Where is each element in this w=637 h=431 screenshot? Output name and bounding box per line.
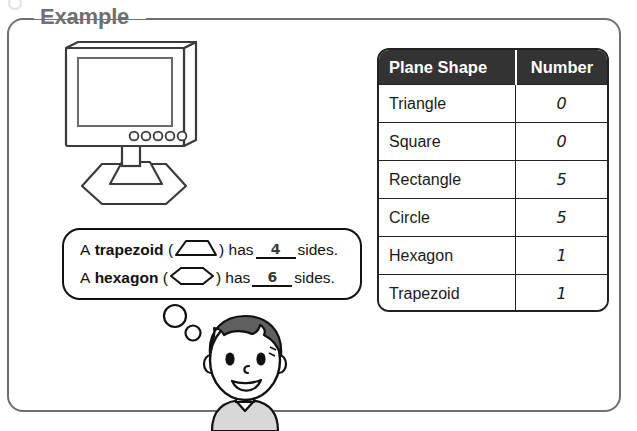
table-row: Hexagon1 bbox=[379, 237, 607, 275]
table-header-row: Plane Shape Number bbox=[379, 50, 607, 85]
verb-1: has bbox=[229, 241, 254, 259]
tail-2: sides. bbox=[294, 269, 335, 287]
thought-bubble-small-icon bbox=[186, 326, 201, 341]
sentence-hexagon: A hexagon ( ) has 6 sides. bbox=[80, 264, 335, 292]
open-paren-2: ( bbox=[163, 269, 168, 287]
blank-underline-1 bbox=[256, 257, 296, 259]
table-row: Rectangle5 bbox=[379, 161, 607, 199]
worksheet-page: Example A trapezoi bbox=[0, 0, 637, 431]
cell-shape-count[interactable]: 0 bbox=[516, 123, 607, 161]
shape-name-hexagon: hexagon bbox=[95, 269, 159, 287]
answer-value-trapezoid: 4 bbox=[256, 241, 296, 257]
open-paren-1: ( bbox=[168, 241, 173, 259]
monitor-icon bbox=[58, 36, 210, 208]
hexagon-glyph-icon bbox=[169, 266, 215, 290]
tail-1: sides. bbox=[298, 241, 339, 259]
cell-shape-count[interactable]: 5 bbox=[516, 161, 607, 199]
section-label: Example bbox=[40, 4, 129, 30]
shape-tally-table: Plane Shape Number Triangle0Square0Recta… bbox=[377, 48, 609, 312]
computer-monitor-illustration bbox=[58, 36, 210, 208]
cell-shape-count[interactable]: 1 bbox=[516, 275, 607, 313]
sentence-box: A trapezoid ( ) has 4 sides. A hexagon (… bbox=[62, 228, 362, 300]
thought-bubble-large-icon bbox=[164, 305, 186, 327]
close-paren-1: ) bbox=[219, 241, 224, 259]
verb-2: has bbox=[225, 269, 250, 287]
cell-shape-count[interactable]: 1 bbox=[516, 237, 607, 275]
close-paren-2: ) bbox=[216, 269, 221, 287]
right-eye bbox=[256, 352, 265, 365]
table-row: Triangle0 bbox=[379, 85, 607, 123]
corner-mark-icon bbox=[8, 0, 22, 10]
cell-shape-name: Trapezoid bbox=[379, 275, 516, 313]
trapezoid-glyph-icon bbox=[174, 239, 218, 261]
sentence-trapezoid: A trapezoid ( ) has 4 sides. bbox=[80, 236, 338, 264]
cell-shape-count[interactable]: 5 bbox=[516, 199, 607, 237]
table-row: Square0 bbox=[379, 123, 607, 161]
shape-name-trapezoid: trapezoid bbox=[95, 241, 164, 259]
cell-shape-name: Hexagon bbox=[379, 237, 516, 275]
sentence-lead-1: A bbox=[80, 241, 90, 259]
table-row: Trapezoid1 bbox=[379, 275, 607, 313]
boy-icon bbox=[160, 302, 330, 431]
answer-blank-hexagon[interactable]: 6 bbox=[252, 267, 292, 289]
cell-shape-name: Square bbox=[379, 123, 516, 161]
column-header-plane-shape: Plane Shape bbox=[379, 50, 516, 85]
cell-shape-name: Rectangle bbox=[379, 161, 516, 199]
cell-shape-count[interactable]: 0 bbox=[516, 85, 607, 123]
table-row: Circle5 bbox=[379, 199, 607, 237]
thinking-boy-illustration bbox=[160, 302, 330, 431]
cell-shape-name: Triangle bbox=[379, 85, 516, 123]
column-header-number: Number bbox=[516, 50, 607, 85]
blank-underline-2 bbox=[252, 285, 292, 287]
left-eye bbox=[225, 352, 234, 365]
cell-shape-name: Circle bbox=[379, 199, 516, 237]
sentence-lead-2: A bbox=[80, 269, 90, 287]
answer-value-hexagon: 6 bbox=[252, 269, 292, 285]
answer-blank-trapezoid[interactable]: 4 bbox=[256, 239, 296, 261]
